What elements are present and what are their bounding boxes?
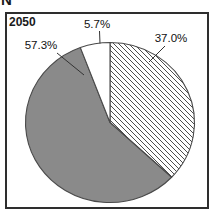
chart-year-title: 2050 xyxy=(9,15,36,29)
figure: N 2050 5.7% 37.0% 57.3% xyxy=(0,0,214,215)
figure-corner-letter: N xyxy=(1,0,12,8)
chart-panel: 2050 xyxy=(5,12,209,209)
